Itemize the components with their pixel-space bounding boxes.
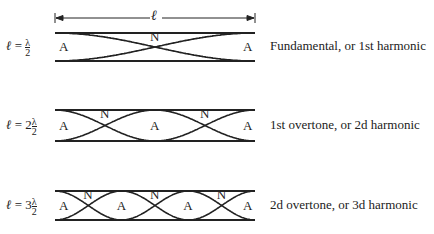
antinode-label: A (243, 39, 252, 55)
harmonic-caption-2: 1st overtone, or 2d harmonic (270, 117, 420, 133)
harmonic-caption-1: Fundamental, or 1st harmonic (270, 38, 426, 54)
node-label: N (150, 187, 159, 203)
antinode-label: A (59, 39, 68, 55)
node-label: N (83, 187, 92, 203)
antinode-label: A (243, 118, 252, 134)
antinode-label: A (183, 198, 192, 214)
node-label: N (217, 187, 226, 203)
antinode-label: A (117, 198, 126, 214)
antinode-label: A (243, 198, 252, 214)
antinode-label: A (59, 118, 68, 134)
harmonic-caption-3: 2d overtone, or 3d harmonic (270, 197, 418, 213)
antinode-label: A (150, 118, 159, 134)
equation-1: ℓ = λ2 (6, 38, 30, 57)
node-label: N (200, 106, 209, 122)
antinode-label: A (59, 198, 68, 214)
length-label: ℓ (151, 8, 157, 24)
node-label: N (100, 106, 109, 122)
equation-3: ℓ = 3λ2 (6, 197, 37, 216)
node-label: N (150, 29, 159, 45)
equation-2: ℓ = 2λ2 (6, 117, 37, 136)
